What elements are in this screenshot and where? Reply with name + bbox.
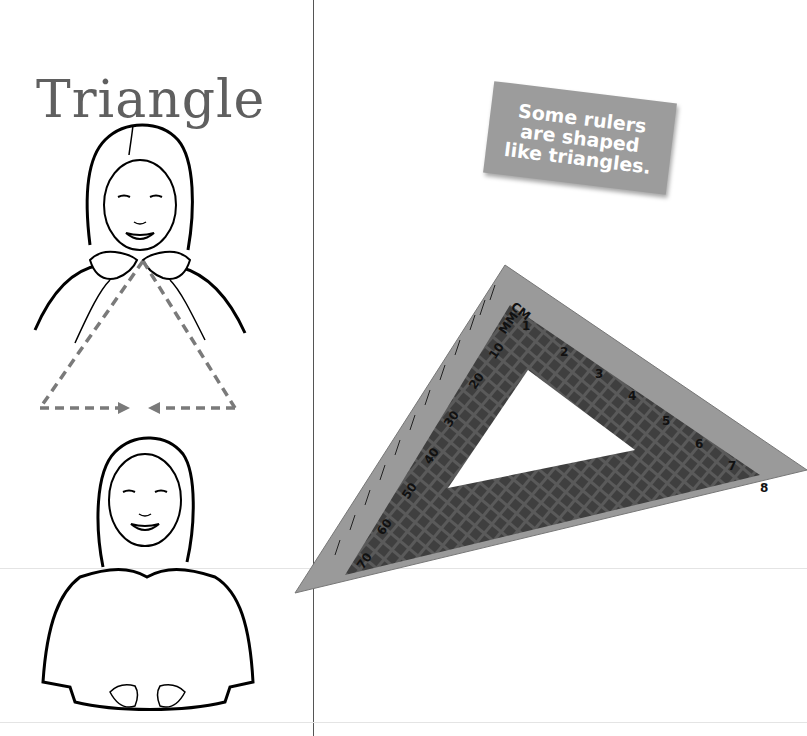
- callout-box: Some rulers are shaped like triangles.: [483, 81, 677, 195]
- svg-text:2: 2: [560, 345, 568, 359]
- svg-text:1: 1: [522, 319, 530, 333]
- svg-text:6: 6: [695, 437, 703, 451]
- arrow-right-icon: [118, 402, 130, 414]
- svg-text:4: 4: [628, 389, 636, 403]
- triangle-ruler-photo: CM 1 2 3 4 5 6 7 8 MM 10 20 30 40 50 60 …: [290, 260, 807, 600]
- svg-text:5: 5: [662, 414, 670, 428]
- girl-signing-end-illustration: [35, 432, 260, 717]
- page-bottom-line: [0, 722, 807, 723]
- svg-text:8: 8: [760, 481, 768, 495]
- svg-text:7: 7: [728, 459, 736, 473]
- svg-text:3: 3: [595, 367, 603, 381]
- arrow-left-icon: [148, 402, 160, 414]
- motion-path-dashed-triangle: [30, 255, 250, 420]
